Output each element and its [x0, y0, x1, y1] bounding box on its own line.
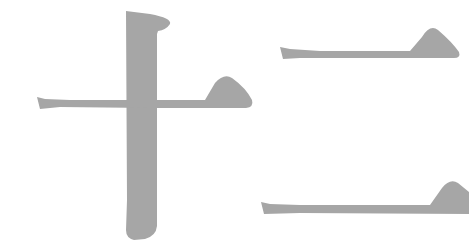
er-top-stroke [280, 28, 459, 59]
er-bottom-stroke [261, 181, 469, 214]
calligraphy-canvas: 十二 [0, 0, 469, 252]
shi-vertical-stroke [126, 11, 170, 240]
